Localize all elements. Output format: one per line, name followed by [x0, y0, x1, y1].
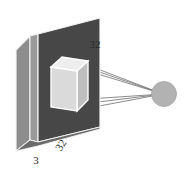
slab-side-face: [16, 36, 30, 151]
figure-canvas: 32 32 3: [0, 0, 186, 175]
output-unit-sphere: [152, 82, 177, 107]
label-width-32: 32: [90, 38, 101, 50]
kernel-front-face: [51, 67, 77, 111]
cnn-convolution-diagram: 32 32 3: [0, 0, 186, 175]
output-unit-circle: [152, 82, 177, 107]
receptive-field-box: [51, 57, 88, 111]
label-depth-3: 3: [33, 154, 39, 166]
slab-inner-edge-face: [30, 34, 38, 142]
